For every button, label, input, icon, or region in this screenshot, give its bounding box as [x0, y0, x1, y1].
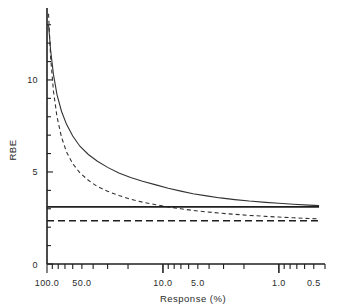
dashed-curve: [49, 14, 320, 219]
y-axis-tick-label: 0: [33, 260, 38, 270]
rbe-response-chart: 0510RBE100.050.010.05.01.00.5Response (%…: [0, 0, 344, 306]
x-axis-tick-label: 100.0: [35, 278, 60, 288]
x-axis-tick-label: 50.0: [72, 278, 91, 288]
x-axis-tick-label: 10.0: [153, 278, 172, 288]
x-axis-tick-label: 1.0: [272, 278, 286, 288]
y-axis-tick-label: 5: [33, 167, 38, 177]
chart-canvas: 0510RBE100.050.010.05.01.00.5Response (%…: [0, 0, 344, 306]
x-axis-tick-label: 0.5: [307, 278, 321, 288]
solid-curve: [49, 25, 320, 206]
y-axis-tick-label: 10: [27, 75, 38, 85]
x-axis-tick-label: 5.0: [191, 278, 205, 288]
y-axis-title: RBE: [7, 139, 18, 160]
x-axis-title: Response (%): [160, 293, 226, 304]
